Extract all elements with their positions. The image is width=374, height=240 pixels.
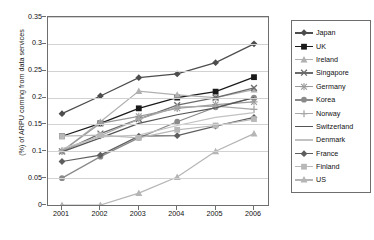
y-axis-tick-mark: [42, 150, 46, 151]
series-finland: [59, 116, 257, 141]
y-axis-tick-mark: [42, 177, 46, 178]
legend-label: US: [313, 175, 326, 184]
y-axis-tick-label: 0.15: [0, 119, 42, 128]
x-axis-tick-mark: [215, 206, 216, 210]
legend-marker-icon: [295, 134, 313, 145]
x-axis-tick-label: 2006: [230, 209, 276, 218]
y-axis-tick-label: 0.05: [0, 173, 42, 182]
chart-container: (%) of ARPU coming from data services 00…: [0, 0, 374, 240]
chart-legend: JapanUKIrelandSingaporeGermanyKoreaNorwa…: [291, 20, 371, 193]
legend-label: Denmark: [313, 135, 345, 144]
y-axis-tick-label: 0.2: [0, 92, 42, 101]
legend-item-uk[interactable]: UK: [295, 39, 367, 52]
legend-item-norway[interactable]: Norway: [295, 106, 367, 119]
legend-label: Finland: [313, 162, 340, 171]
gridline: [48, 44, 268, 45]
legend-marker-icon: [295, 121, 313, 132]
y-axis-tick-label: 0.35: [0, 12, 42, 21]
y-axis-tick-mark: [42, 70, 46, 71]
legend-marker-icon: [295, 81, 313, 92]
legend-marker-icon: [295, 27, 313, 38]
series-japan: [59, 40, 258, 117]
legend-item-japan[interactable]: Japan: [295, 26, 367, 39]
legend-item-ireland[interactable]: Ireland: [295, 53, 367, 66]
legend-label: France: [313, 149, 338, 158]
legend-marker-icon: [295, 67, 313, 78]
x-axis-tick-mark: [99, 206, 100, 210]
legend-marker-icon: [295, 54, 313, 65]
legend-label: Japan: [313, 28, 336, 37]
legend-marker-icon: [295, 108, 313, 119]
gridline: [48, 71, 268, 72]
y-axis-tick-mark: [42, 97, 46, 98]
y-axis-tick-label: 0.3: [0, 38, 42, 47]
gridline: [48, 124, 268, 125]
y-axis-tick-mark: [42, 43, 46, 44]
y-axis-tick-mark: [42, 16, 46, 17]
legend-marker-icon: [295, 94, 313, 105]
legend-label: UK: [313, 42, 326, 51]
series-ireland: [59, 86, 258, 154]
series-us: [59, 130, 258, 205]
y-axis-tick-label: 0.1: [0, 146, 42, 155]
legend-item-switzerland[interactable]: Switzerland: [295, 120, 367, 133]
legend-label: Germany: [313, 82, 346, 91]
y-axis-tick-label: 0.25: [0, 65, 42, 74]
y-axis-tick-mark: [42, 123, 46, 124]
x-axis-tick-mark: [253, 206, 254, 210]
x-axis-tick-mark: [61, 206, 62, 210]
gridline: [48, 98, 268, 99]
legend-label: Korea: [313, 95, 335, 104]
x-axis-tick-mark: [176, 206, 177, 210]
legend-item-france[interactable]: France: [295, 147, 367, 160]
legend-item-korea[interactable]: Korea: [295, 93, 367, 106]
legend-label: Ireland: [313, 55, 338, 64]
gridline: [48, 17, 268, 18]
legend-marker-icon: [295, 174, 313, 185]
legend-label: Norway: [313, 109, 340, 118]
legend-label: Switzerland: [313, 122, 353, 131]
gridline: [48, 151, 268, 152]
legend-item-denmark[interactable]: Denmark: [295, 133, 367, 146]
legend-marker-icon: [295, 41, 313, 52]
x-axis-tick-mark: [138, 206, 139, 210]
y-axis-tick-label: 0: [0, 200, 42, 209]
chart-lines: [48, 17, 268, 205]
plot-area: [47, 16, 269, 206]
legend-marker-icon: [295, 161, 313, 172]
y-axis-tick-mark: [42, 204, 46, 205]
legend-marker-icon: [295, 148, 313, 159]
series-norway: [59, 103, 258, 155]
legend-item-singapore[interactable]: Singapore: [295, 66, 367, 79]
legend-item-us[interactable]: US: [295, 173, 367, 186]
legend-label: Singapore: [313, 68, 349, 77]
legend-item-germany[interactable]: Germany: [295, 80, 367, 93]
gridline: [48, 178, 268, 179]
legend-item-finland[interactable]: Finland: [295, 160, 367, 173]
